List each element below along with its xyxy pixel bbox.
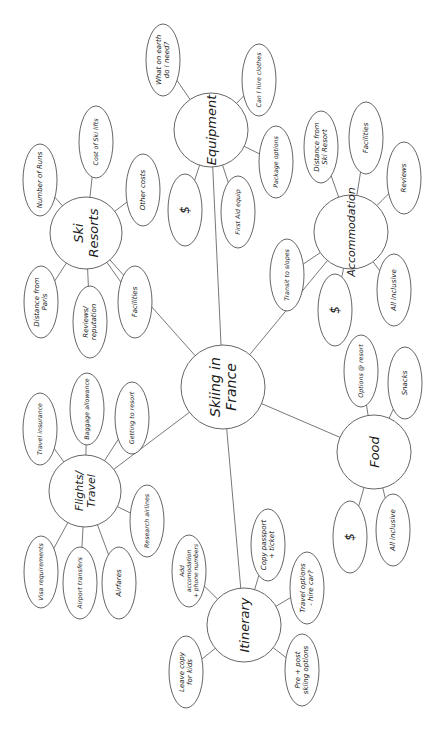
node-label-line: Can I hire clothes xyxy=(255,52,262,108)
node-label-line: - hire car? xyxy=(307,570,315,606)
subtopic-node-accommodation-cost[interactable]: $ xyxy=(318,274,352,346)
subtopic-node-baggage-allowance[interactable]: Baggage allowance xyxy=(70,373,104,445)
subtopic-node-airfares[interactable]: Airfares xyxy=(102,547,136,619)
topic-node-food[interactable]: Food xyxy=(337,415,411,489)
subtopic-node-other-costs[interactable]: Other costs xyxy=(126,154,160,226)
node-label-line: Visa requirements xyxy=(37,542,45,600)
mind-map: Skiing inFranceSkiResortsNumber of RunsC… xyxy=(0,0,443,745)
connector-ski-resorts-to-distance-from-paris xyxy=(55,263,67,281)
connector-flights-travel-to-travel-insurance xyxy=(54,449,64,462)
node-label-line: Facilities xyxy=(131,286,139,317)
connector-food-to-food-all-inclusive xyxy=(383,488,385,498)
node-label: Baggage allowance xyxy=(83,378,91,440)
connector-root-to-food xyxy=(262,404,340,438)
node-label-line: Cost of Ski lifts xyxy=(92,118,99,166)
connector-ski-resorts-to-cost-of-ski-lifts xyxy=(90,177,92,197)
topic-node-root[interactable]: Skiing inFrance xyxy=(181,345,265,429)
subtopic-node-reviews-reputation[interactable]: Reviews/reputation xyxy=(73,286,107,358)
node-label-line: What on earth xyxy=(155,35,163,85)
node-label-line: Distance from xyxy=(313,122,321,171)
topic-node-flights-travel[interactable]: Flights/Travel xyxy=(49,455,121,527)
node-label: Airport transfers xyxy=(76,556,84,609)
subtopic-node-leave-copy-for-kids[interactable]: Leave copyfor kids xyxy=(169,636,203,708)
subtopic-node-pre-post-skiing-options[interactable]: Pre + postskiing options xyxy=(285,634,319,706)
subtopic-node-accommodation-reviews[interactable]: Reviews xyxy=(387,142,421,214)
connector-equipment-to-what-do-i-need xyxy=(177,80,190,99)
connector-flights-travel-to-visa-requirements xyxy=(54,523,68,549)
node-label: Facilities xyxy=(131,286,139,317)
subtopic-node-ski-facilities[interactable]: Facilities xyxy=(118,266,152,338)
connector-equipment-to-equipment-cost xyxy=(195,165,200,180)
connector-flights-travel-to-airfares xyxy=(97,525,108,555)
subtopic-node-transit-to-slopes[interactable]: Transit to slopes xyxy=(270,239,304,311)
node-label: Facilities xyxy=(362,122,370,153)
subtopic-node-accommodation-all-inclusive[interactable]: All inclusive xyxy=(377,254,411,326)
connector-accommodation-to-transit-to-slopes xyxy=(303,253,320,264)
connector-itinerary-to-copy-passport-ticket xyxy=(255,575,259,589)
subtopic-node-first-aid-equip[interactable]: First Aid equip xyxy=(221,176,255,248)
node-label: Visa requirements xyxy=(37,542,45,600)
subtopic-node-cost-of-ski-lifts[interactable]: Cost of Ski lifts xyxy=(79,106,113,178)
connector-itinerary-to-pre-post-skiing-options xyxy=(273,648,286,658)
node-label: All inclusive xyxy=(390,269,398,312)
node-label: Reviews xyxy=(400,163,408,192)
node-label-line: Getting to resort xyxy=(128,391,136,444)
topic-node-equipment[interactable]: Equipment xyxy=(174,93,248,167)
node-label-line: Other costs xyxy=(139,170,147,211)
subtopic-node-food-cost[interactable]: $ xyxy=(333,501,367,573)
node-label-line: France xyxy=(223,363,239,411)
node-label: All inclusive xyxy=(389,509,397,552)
node-label-line: Snacks xyxy=(401,370,409,395)
subtopic-node-distance-from-ski-resort[interactable]: Distance fromSki Resort xyxy=(304,111,338,183)
node-label: Equipment xyxy=(204,94,219,165)
node-label-line: reputation xyxy=(90,304,98,341)
subtopic-node-add-accomodation-numbers[interactable]: Addaccomodation+ phone numbers xyxy=(172,535,206,607)
node-label-line: First Aid equip xyxy=(234,189,242,234)
node-label: Distance fromSki Resort xyxy=(313,122,329,171)
node-label-line: Package options xyxy=(272,135,280,187)
subtopic-node-accommodation-facilities[interactable]: Facilities xyxy=(349,102,383,174)
subtopic-node-equipment-cost[interactable]: $ xyxy=(168,174,202,246)
node-label-line: $ xyxy=(178,206,192,214)
subtopic-node-number-of-runs[interactable]: Number of Runs xyxy=(23,144,57,216)
topic-node-accommodation[interactable]: Accommodation xyxy=(314,187,388,277)
subtopic-node-snacks[interactable]: Snacks xyxy=(388,347,422,419)
node-label: $ xyxy=(343,533,357,541)
node-label-line: + phone numbers xyxy=(192,544,200,598)
node-label: Other costs xyxy=(139,170,147,211)
node-label-line: Reviews xyxy=(400,163,408,192)
subtopic-node-getting-to-resort[interactable]: Getting to resort xyxy=(115,382,149,454)
connector-root-to-itinerary xyxy=(227,429,241,588)
node-label: Can I hire clothes xyxy=(255,52,262,108)
node-label: $ xyxy=(328,306,342,314)
connector-itinerary-to-travel-options-hire-car xyxy=(276,598,291,607)
subtopic-node-visa-requirements[interactable]: Visa requirements xyxy=(24,536,58,608)
node-label-line: Food xyxy=(367,435,382,467)
subtopic-node-travel-insurance[interactable]: Travel insurance xyxy=(23,393,57,465)
connector-root-to-equipment xyxy=(213,167,221,345)
node-label-line: Transit to slopes xyxy=(283,248,291,300)
connector-flights-travel-to-research-airlines xyxy=(117,507,130,513)
subtopic-node-research-airlines[interactable]: Research airlines xyxy=(130,485,164,557)
connector-equipment-to-package-options xyxy=(244,146,259,154)
subtopic-node-what-do-i-need[interactable]: What on earthdo I need? xyxy=(146,24,180,96)
subtopic-node-travel-options-hire-car[interactable]: Travel options- hire car? xyxy=(290,552,324,624)
node-label: What on earthdo I need? xyxy=(155,35,171,85)
topic-node-itinerary[interactable]: Itinerary xyxy=(207,588,281,662)
subtopic-node-food-all-inclusive[interactable]: All inclusive xyxy=(376,494,410,566)
node-label: Itinerary xyxy=(237,597,252,652)
connector-food-to-snacks xyxy=(389,409,393,418)
node-label: Package options xyxy=(272,135,280,187)
subtopic-node-package-options[interactable]: Package options xyxy=(259,126,293,198)
node-label-line: do I need? xyxy=(163,41,171,78)
node-label-line: + ticket xyxy=(268,531,276,559)
node-label-line: Airport transfers xyxy=(76,556,84,609)
node-label-line: Travel insurance xyxy=(36,403,43,455)
subtopic-node-distance-from-paris[interactable]: Distance fromParis xyxy=(24,266,58,338)
subtopic-node-options-at-resort[interactable]: Options @ resort xyxy=(344,335,378,407)
subtopic-node-airport-transfers[interactable]: Airport transfers xyxy=(63,547,97,619)
node-label: Travel insurance xyxy=(36,403,43,455)
subtopic-node-copy-passport-ticket[interactable]: Copy passport+ ticket xyxy=(251,509,285,581)
subtopic-node-hire-clothes[interactable]: Can I hire clothes xyxy=(242,44,276,116)
topic-node-ski-resorts[interactable]: SkiResorts xyxy=(50,197,122,269)
